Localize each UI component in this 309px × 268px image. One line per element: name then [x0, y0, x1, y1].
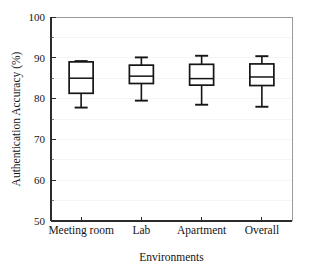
box-iqr — [129, 65, 153, 83]
y-tick-label: 70 — [34, 133, 46, 145]
x-axis-title: Environments — [139, 251, 204, 263]
y-tick-label: 80 — [34, 92, 46, 104]
x-tick-label: Overall — [245, 224, 279, 236]
box-plot-group — [129, 57, 153, 100]
y-axis-title: Authentication Accuracy (%) — [10, 51, 23, 186]
x-tick-label: Meeting room — [48, 224, 114, 237]
y-tick-label: 60 — [34, 174, 46, 186]
x-tick-label: Lab — [132, 224, 150, 236]
box-plot-group — [69, 61, 93, 108]
box-plot-group — [250, 56, 274, 107]
chart-canvas: 5060708090100Meeting roomLabApartmentOve… — [0, 0, 309, 268]
box-plot-figure: 5060708090100Meeting roomLabApartmentOve… — [0, 0, 309, 268]
box-iqr — [190, 64, 214, 85]
box-iqr — [250, 64, 274, 86]
y-tick-label: 90 — [34, 52, 46, 64]
x-tick-label: Apartment — [177, 224, 227, 237]
y-tick-label: 50 — [34, 215, 46, 227]
box-plot-group — [190, 56, 214, 105]
y-tick-label: 100 — [29, 11, 46, 23]
